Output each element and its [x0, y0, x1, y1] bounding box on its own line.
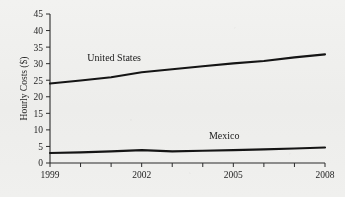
x-axis-tick-label: 2005: [224, 170, 243, 180]
x-axis-tick-label: 1999: [41, 170, 60, 180]
y-axis-tick-label: 15: [34, 109, 44, 119]
y-axis-tick-label: 40: [34, 26, 44, 36]
y-axis-tick-label: 35: [34, 43, 44, 53]
y-axis-tick-label: 0: [38, 158, 43, 168]
chart-figure: 051015202530354045Hourly Costs ($) 19992…: [0, 0, 345, 197]
y-axis-tick-label: 5: [38, 142, 43, 152]
y-axis-tick-label: 25: [34, 76, 44, 86]
y-axis-tick-label: 30: [34, 59, 44, 69]
series-label-mexico: Mexico: [209, 130, 240, 141]
y-axis-tick-label: 10: [34, 125, 44, 135]
x-axis-tick-label: 2008: [316, 170, 335, 180]
series-line-mexico: [50, 147, 325, 153]
series-label-united-states: United States: [87, 52, 141, 63]
y-axis-tick-label: 20: [34, 92, 44, 102]
y-axis-group: 051015202530354045Hourly Costs ($): [19, 9, 50, 168]
y-axis-tick-label: 45: [34, 9, 44, 19]
x-axis-group: 1999200220052008: [41, 163, 335, 180]
y-axis-title: Hourly Costs ($): [19, 57, 30, 121]
series-group: United StatesMexico: [50, 52, 325, 153]
line-chart: 051015202530354045Hourly Costs ($) 19992…: [0, 0, 345, 197]
x-axis-tick-label: 2002: [132, 170, 151, 180]
